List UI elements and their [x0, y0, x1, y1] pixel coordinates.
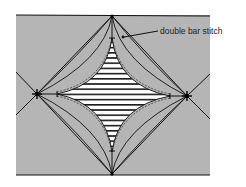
bottom-vertex: [110, 172, 113, 175]
annotation-label: double bar stitch: [160, 26, 222, 36]
right-vertex: [185, 94, 189, 98]
top-vertex: [110, 14, 113, 17]
leader-dot: [122, 36, 125, 39]
left-vertex: [35, 92, 39, 96]
